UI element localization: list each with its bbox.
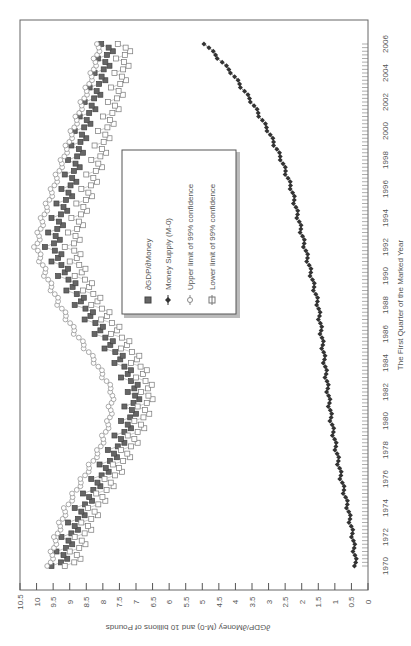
year-tick-label: 1984 bbox=[381, 354, 390, 372]
year-tick-label: 1970 bbox=[381, 557, 390, 575]
value-tick-label: 2.5 bbox=[281, 596, 290, 608]
legend-label: Money Supply (M-0) bbox=[164, 218, 173, 290]
year-tick-label: 1972 bbox=[381, 528, 390, 546]
year-tick-label: 2006 bbox=[381, 35, 390, 53]
value-tick-label: 8.5 bbox=[82, 596, 91, 608]
year-tick-label: 1974 bbox=[381, 499, 390, 517]
value-tick-label: 3 bbox=[265, 599, 274, 604]
year-tick-label: 2002 bbox=[381, 93, 390, 111]
legend-label: Upper limit of 99% confidence bbox=[186, 183, 195, 290]
year-tick-label: 1998 bbox=[381, 151, 390, 169]
year-tick-label: 1992 bbox=[381, 238, 390, 256]
value-tick-label: 10.5 bbox=[16, 594, 25, 610]
year-tick-label: 1994 bbox=[381, 209, 390, 227]
legend-label: ∂GDP/∂Money bbox=[144, 239, 153, 290]
legend-item: Upper limit of 99% confidence bbox=[186, 183, 195, 305]
value-tick-label: 2 bbox=[298, 599, 307, 604]
value-tick-label: 3.5 bbox=[248, 596, 257, 608]
legend-item: Lower limit of 99% confidence bbox=[208, 183, 217, 305]
value-tick-label: 1.5 bbox=[314, 596, 323, 608]
year-tick-label: 1986 bbox=[381, 325, 390, 343]
value-tick-label: 6 bbox=[165, 599, 174, 604]
value-tick-label: 7 bbox=[132, 599, 141, 604]
legend-label: Lower limit of 99% confidence bbox=[208, 183, 217, 290]
year-tick-label: 2000 bbox=[381, 122, 390, 140]
year-axis-label: The First Quarter of the Marked Year bbox=[396, 240, 405, 371]
value-tick-label: 4.5 bbox=[215, 596, 224, 608]
value-axis-label: ∂GDP/∂Money (M-0) and 10 billions of Pou… bbox=[106, 623, 270, 632]
year-tick-label: 1996 bbox=[381, 180, 390, 198]
value-tick-label: 5.5 bbox=[182, 596, 191, 608]
value-tick-label: 9 bbox=[66, 599, 75, 604]
value-tick-label: 8 bbox=[99, 599, 108, 604]
year-tick-label: 1976 bbox=[381, 470, 390, 488]
value-tick-label: 5 bbox=[198, 599, 207, 604]
chart-container: 00.511.522.533.544.555.566.577.588.599.5… bbox=[0, 0, 411, 646]
value-tick-label: 1 bbox=[331, 599, 340, 604]
value-tick-label: 9.5 bbox=[49, 596, 58, 608]
legend: ∂GDP/∂MoneyMoney Supply (M-0)Upper limit… bbox=[122, 150, 240, 318]
value-tick-label: 7.5 bbox=[115, 596, 124, 608]
value-tick-label: 6.5 bbox=[149, 596, 158, 608]
year-tick-label: 1978 bbox=[381, 441, 390, 459]
year-tick-label: 1982 bbox=[381, 383, 390, 401]
value-tick-label: 0.5 bbox=[347, 596, 356, 608]
year-tick-label: 1980 bbox=[381, 412, 390, 430]
value-tick-label: 0 bbox=[364, 599, 373, 604]
rotated-line-chart: 00.511.522.533.544.555.566.577.588.599.5… bbox=[0, 0, 411, 646]
year-tick-label: 1990 bbox=[381, 267, 390, 285]
year-tick-label: 1988 bbox=[381, 296, 390, 314]
year-tick-label: 2004 bbox=[381, 64, 390, 82]
value-tick-label: 4 bbox=[231, 599, 240, 604]
value-tick-label: 10 bbox=[33, 597, 42, 606]
